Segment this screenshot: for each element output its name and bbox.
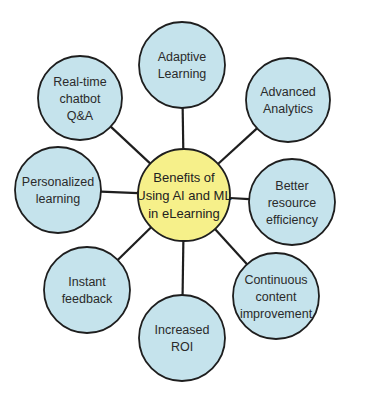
node-personalized-learning: Personalizedlearning	[15, 147, 101, 233]
node-label-line: Real-time	[53, 75, 107, 89]
node-label-line: in eLearning	[148, 206, 220, 221]
node-label-line: feedback	[62, 292, 113, 306]
node-circle	[139, 22, 225, 108]
node-label-line: Learning	[158, 67, 207, 81]
node-increased-roi: IncreasedROI	[139, 295, 225, 381]
connector-continuous-content-improvement	[215, 229, 247, 264]
node-label-line: efficiency	[266, 213, 319, 227]
node-circle	[15, 147, 101, 233]
connector-adaptive-learning	[183, 108, 184, 149]
node-circle	[246, 58, 330, 142]
node-label-line: Adaptive	[158, 50, 207, 64]
node-continuous-content-improvement: Continuouscontentimprovement	[233, 253, 319, 339]
node-circle	[44, 247, 130, 333]
node-label-line: Personalized	[22, 175, 94, 189]
node-label-line: Advanced	[260, 85, 316, 99]
node-adaptive-learning: AdaptiveLearning	[139, 22, 225, 108]
node-label-line: improvement	[240, 307, 313, 321]
node-label-line: resource	[268, 196, 317, 210]
node-label-line: Analytics	[263, 102, 313, 116]
node-label-line: Increased	[155, 323, 210, 337]
connector-better-resource-efficiency	[230, 198, 249, 199]
node-better-resource-efficiency: Betterresourceefficiency	[249, 159, 335, 245]
node-circle	[139, 295, 225, 381]
node-label-line: Continuous	[244, 273, 307, 287]
node-advanced-analytics: AdvancedAnalytics	[246, 58, 330, 142]
node-label-line: Q&A	[67, 109, 94, 123]
node-label-line: Instant	[68, 275, 106, 289]
node-instant-feedback: Instantfeedback	[44, 247, 130, 333]
connector-advanced-analytics	[218, 128, 257, 164]
node-label-line: Using AI and ML	[136, 188, 231, 203]
node-label-line: Benefits of	[153, 170, 215, 185]
connector-real-time-chatbot-qa	[111, 127, 151, 164]
benefits-mind-map: AdaptiveLearningAdvancedAnalyticsBetterr…	[0, 0, 368, 399]
connector-increased-roi	[183, 241, 184, 295]
node-label-line: Better	[275, 179, 308, 193]
connector-instant-feedback	[118, 227, 151, 260]
node-real-time-chatbot-qa: Real-timechatbotQ&A	[38, 56, 122, 140]
central-hub: Benefits ofUsing AI and MLin eLearning	[136, 149, 231, 241]
connector-personalized-learning	[101, 192, 138, 193]
node-label-line: learning	[36, 192, 81, 206]
node-label-line: ROI	[171, 340, 193, 354]
node-label-line: chatbot	[59, 92, 101, 106]
node-label-line: content	[255, 290, 297, 304]
